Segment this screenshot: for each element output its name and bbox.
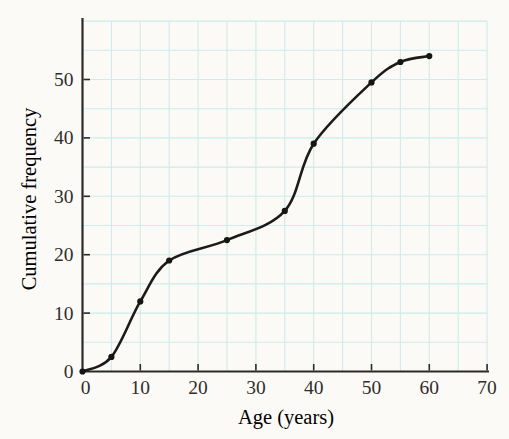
x-tick-label: 20 bbox=[188, 377, 208, 398]
y-tick-label: 0 bbox=[64, 361, 74, 382]
y-tick-label: 30 bbox=[54, 186, 74, 207]
x-axis-title: Age (years) bbox=[238, 406, 334, 429]
data-point bbox=[426, 53, 432, 59]
data-point bbox=[137, 298, 143, 304]
data-point bbox=[282, 208, 288, 214]
data-point bbox=[79, 368, 85, 374]
x-tick-label: 0 bbox=[81, 377, 91, 398]
chart-background bbox=[0, 0, 509, 439]
y-tick-label: 40 bbox=[54, 127, 74, 148]
x-tick-label: 30 bbox=[246, 377, 266, 398]
x-tick-label: 40 bbox=[304, 377, 324, 398]
y-axis-title: Cumulative frequency bbox=[18, 107, 41, 290]
data-point bbox=[311, 141, 317, 147]
y-tick-label: 10 bbox=[54, 303, 74, 324]
x-tick-label: 60 bbox=[420, 377, 440, 398]
x-tick-label: 10 bbox=[131, 377, 151, 398]
x-tick-label: 70 bbox=[477, 377, 497, 398]
data-point bbox=[368, 79, 374, 85]
data-point bbox=[108, 354, 114, 360]
data-point bbox=[397, 59, 403, 65]
y-tick-label: 50 bbox=[54, 69, 74, 90]
cumulative-frequency-ogive-figure: 01020304050607001020304050 Age (years) C… bbox=[0, 0, 509, 439]
data-point bbox=[224, 237, 230, 243]
data-point bbox=[166, 257, 172, 263]
chart-canvas: 01020304050607001020304050 Age (years) C… bbox=[0, 0, 509, 439]
x-tick-label: 50 bbox=[362, 377, 382, 398]
y-tick-label: 20 bbox=[54, 244, 74, 265]
